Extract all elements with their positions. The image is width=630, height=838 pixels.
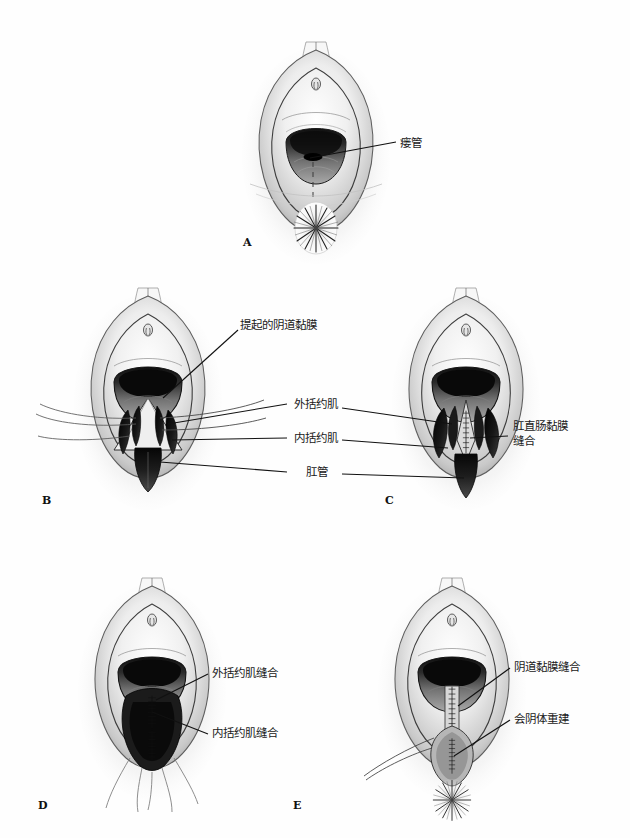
panel-letter-c: C xyxy=(385,494,394,507)
panel-letter-e: E xyxy=(293,799,301,812)
label-external-sphincter: 外括约肌 xyxy=(294,397,338,412)
label-internal-sphincter-suture: 内括约肌缝合 xyxy=(212,726,278,741)
panel-letter-d: D xyxy=(38,799,48,812)
label-external-sphincter-suture: 外括约肌缝合 xyxy=(212,666,278,681)
label-fistula: 瘘管 xyxy=(400,136,422,151)
figure-root: 瘘管 A 提起的阴道黏膜 外括约肌 内括约肌 肛管 B 肛直肠黏膜缝合 C 外括… xyxy=(0,0,630,838)
label-anorectal-mucosa-suture: 肛直肠黏膜缝合 xyxy=(513,419,575,449)
label-vaginal-mucosa-suture: 阴道黏膜缝合 xyxy=(514,660,580,675)
panel-letter-a: A xyxy=(243,236,252,249)
panel-c-illustration xyxy=(342,288,540,510)
panel-d-illustration xyxy=(78,578,226,812)
label-internal-sphincter: 内括约肌 xyxy=(294,431,338,446)
label-anal-canal: 肛管 xyxy=(306,465,328,480)
label-elevated-vaginal-mucosa: 提起的阴道黏膜 xyxy=(240,318,317,333)
panel-e-illustration xyxy=(364,578,526,821)
panel-a-illustration xyxy=(242,42,396,264)
panel-letter-b: B xyxy=(42,494,51,507)
label-perineal-body-reconstruction: 会阴体重建 xyxy=(514,712,569,727)
